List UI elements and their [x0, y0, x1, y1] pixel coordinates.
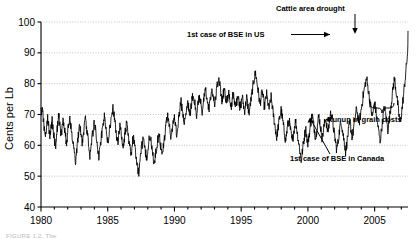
annotation-bse-us-arrowhead [324, 32, 330, 37]
y-tick-label: 60 [24, 140, 36, 151]
x-tick-label: 1985 [97, 215, 120, 226]
x-tick-label: 1990 [163, 215, 186, 226]
y-axis-ticks: 405060708090100 [18, 17, 41, 213]
x-tick-label: 2000 [297, 215, 320, 226]
annotation-bse-us-label: 1st case of BSE in US [187, 30, 265, 39]
x-tick-label: 1980 [30, 215, 53, 226]
y-tick-label: 50 [24, 171, 36, 182]
annotation-drought: Cattle area drought [276, 4, 358, 34]
annotation-grain-costs-label: Runup in grain costs [327, 115, 402, 124]
y-axis-label: Cents per Lb [3, 87, 15, 150]
annotation-bse-us: 1st case of BSE in US [187, 30, 330, 39]
y-tick-label: 80 [24, 78, 36, 89]
figure-caption: FIGURE 1.2. The [6, 233, 57, 239]
x-tick-label: 2005 [364, 215, 387, 226]
annotation-bse-canada-label: 1st case of BSE in Canada [290, 154, 385, 163]
figure-container: 405060708090100 198019851990199520002005… [0, 0, 419, 239]
y-tick-label: 100 [18, 17, 35, 28]
x-axis-ticks: 198019851990199520002005 [30, 207, 401, 226]
y-tick-label: 40 [24, 202, 36, 213]
y-tick-label: 90 [24, 47, 36, 58]
annotation-drought-label: Cattle area drought [276, 4, 345, 13]
y-tick-label: 70 [24, 109, 36, 120]
annotation-drought-arrowhead [352, 28, 357, 34]
x-tick-label: 1995 [230, 215, 253, 226]
cattle-price-chart: 405060708090100 198019851990199520002005… [0, 0, 419, 239]
